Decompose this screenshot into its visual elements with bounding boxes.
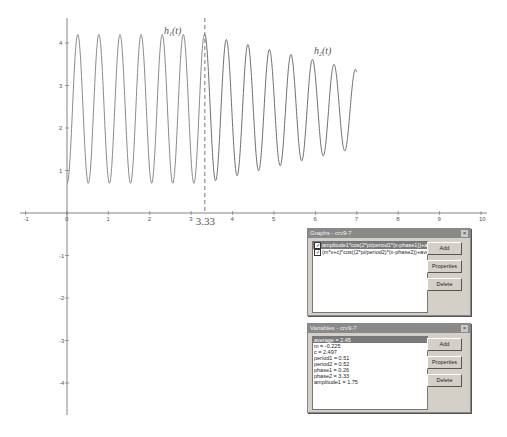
x-tick-label: 2 — [148, 216, 152, 222]
x-tick-label: 10 — [479, 216, 486, 222]
variables-window: Variables - crv9-7 × average = 2.45 m = … — [307, 323, 471, 413]
y-tick-label: 2 — [59, 125, 63, 131]
add-button[interactable]: Add — [427, 242, 462, 255]
y-tick-label: 4 — [59, 40, 63, 46]
x-tick-label: 4 — [231, 216, 235, 222]
properties-button[interactable]: Properties — [427, 260, 462, 273]
x-tick-label: 8 — [396, 216, 400, 222]
checkbox-icon[interactable]: ✓ — [314, 249, 321, 256]
graphs-list[interactable]: ✓amplitude1*cos(2*pi/period1*(x-phase1))… — [312, 241, 428, 313]
delete-button[interactable]: Delete — [427, 278, 462, 291]
variables-window-title: Variables - crv9-7 — [310, 325, 357, 331]
curve-label-h2: h2(t) — [314, 45, 332, 57]
variables-window-titlebar[interactable]: Variables - crv9-7 × — [308, 324, 470, 333]
variables-list[interactable]: average = 2.45 m = -0.225 c = 2.497 peri… — [312, 336, 428, 410]
x-tick-label: 9 — [438, 216, 442, 222]
properties-button[interactable]: Properties — [427, 356, 462, 369]
marker-label: 3.33 — [196, 215, 216, 227]
graph-item[interactable]: ✓amplitude1*cos(2*pi/period1*(x-phase1))… — [313, 242, 427, 249]
y-tick-label: -4 — [59, 380, 65, 386]
add-button[interactable]: Add — [427, 338, 462, 351]
y-tick-label: 1 — [59, 168, 63, 174]
x-tick-label: 7 — [355, 216, 359, 222]
x-tick-label: -1 — [24, 216, 30, 222]
curve-label-h1: h1(t) — [164, 25, 182, 37]
close-icon[interactable]: × — [461, 230, 468, 237]
y-tick-label: -2 — [59, 295, 65, 301]
x-tick-label: 3 — [189, 216, 193, 222]
curve-h2[interactable] — [205, 35, 357, 181]
graph-item[interactable]: ✓(m*x+c)*cos((2*pi/period2)*(x-phase2))+… — [313, 249, 427, 256]
graphs-window: Graphs - crv9-7 × ✓amplitude1*cos(2*pi/p… — [307, 228, 471, 316]
y-tick-label: -3 — [59, 338, 65, 344]
close-icon[interactable]: × — [461, 325, 468, 332]
checkbox-icon[interactable]: ✓ — [314, 242, 321, 249]
x-axis: -1012345678910 — [20, 211, 487, 222]
x-tick-label: 1 — [106, 216, 110, 222]
graphs-window-titlebar[interactable]: Graphs - crv9-7 × — [308, 229, 470, 238]
curve-h1[interactable] — [67, 35, 205, 184]
delete-button[interactable]: Delete — [427, 374, 462, 387]
x-tick-label: 5 — [272, 216, 276, 222]
x-tick-label: 6 — [313, 216, 317, 222]
y-tick-label: 3 — [59, 83, 63, 89]
y-tick-label: -1 — [59, 253, 65, 259]
graphs-window-title: Graphs - crv9-7 — [310, 230, 352, 236]
variable-item[interactable]: amplitude1 = 1.75 — [313, 379, 427, 385]
